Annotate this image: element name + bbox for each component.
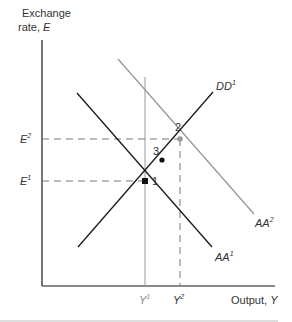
y-axis-label-line2: rate, E xyxy=(18,21,51,33)
y-axis-label-line1: Exchange xyxy=(22,7,71,19)
e2-label: E2 xyxy=(20,132,31,145)
x-axis-label: Output, Y xyxy=(231,294,278,306)
point-3-label: 3 xyxy=(153,145,159,157)
equilibrium-point-1 xyxy=(142,178,148,184)
y1-label: Y1 xyxy=(139,293,150,306)
dd1-label: DD1 xyxy=(216,79,236,92)
point-2-label: 2 xyxy=(175,121,181,133)
aa2-label: AA2 xyxy=(254,216,274,229)
aa1-label: AA1 xyxy=(214,250,234,263)
equilibrium-point-2 xyxy=(177,136,183,142)
y2-label: Y2 xyxy=(173,293,184,306)
point-1-label: 1 xyxy=(152,175,158,187)
e1-label: E1 xyxy=(20,174,31,187)
exchange-rate-output-diagram: Exchange rate, E Output, Y E2 E1 Y1 Y2 D… xyxy=(0,0,292,322)
transition-point-3 xyxy=(159,157,164,162)
